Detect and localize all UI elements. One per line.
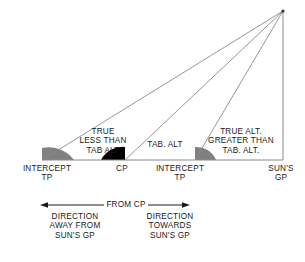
annotation-line: TAB. ALT. — [222, 146, 259, 155]
annotation-line: TRUE — [91, 127, 114, 136]
vertex-label-intercept-tp-right: INTERCEPTTP — [156, 164, 204, 183]
annotation-true-alt-greater-than-tab-alt: TRUE ALT.GREATER THANTAB. ALT. — [208, 127, 274, 155]
vertex-label-suns-gp: SUN'SGP — [268, 164, 293, 183]
direction-label-line: DIRECTION — [52, 212, 99, 221]
direction-label-line: DIRECTION — [147, 212, 194, 221]
annotation-line: LESS THAN — [79, 136, 126, 145]
vertex-label-line: CP — [116, 164, 128, 173]
scale-bar-label-text: FROM CP — [106, 200, 145, 209]
annotation-line: TAB ALT — [87, 146, 120, 155]
vertex-label-line: INTERCEPT — [23, 164, 71, 173]
vertex-label-line: TP — [42, 173, 53, 182]
scale-bar-label-from-cp: FROM CP — [104, 200, 147, 209]
vertex-label-line: INTERCEPT — [156, 164, 204, 173]
diagram-page: TRUELESS THANTAB ALT TAB. ALT TRUE ALT.G… — [0, 0, 305, 262]
annotation-line: TRUE ALT. — [220, 127, 262, 136]
scale-bar-left-arrowhead — [40, 202, 48, 208]
direction-label-away-from-suns-gp: DIRECTIONAWAY FROMSUN'S GP — [50, 212, 101, 240]
scale-bar-right-arrowhead — [182, 202, 190, 208]
vertex-label-line: SUN'S — [268, 164, 293, 173]
direction-label-towards-suns-gp: DIRECTIONTOWARDSSUN'S GP — [147, 212, 194, 240]
annotation-tab-alt: TAB. ALT — [147, 140, 182, 149]
vertex-label-intercept-tp-left: INTERCEPTTP — [23, 164, 71, 183]
annotation-line: TAB. ALT — [147, 140, 182, 149]
vertex-label-line: GP — [275, 173, 287, 182]
direction-label-line: SUN'S GP — [55, 231, 95, 240]
direction-label-line: SUN'S GP — [150, 231, 190, 240]
vertex-label-cp: CP — [116, 164, 128, 173]
angle-wedge-intercept-tp-left — [42, 147, 74, 160]
annotation-line: GREATER THAN — [208, 136, 274, 145]
direction-label-line: TOWARDS — [149, 221, 192, 230]
apex-point — [281, 9, 284, 12]
annotation-true-less-than-tab-alt: TRUELESS THANTAB ALT — [79, 127, 126, 155]
vertex-label-line: TP — [175, 173, 186, 182]
direction-label-line: AWAY FROM — [50, 221, 101, 230]
